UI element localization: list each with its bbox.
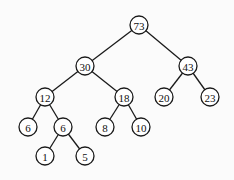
tree-svg: 733043121820236681015 <box>0 0 234 180</box>
node-label: 73 <box>134 20 146 32</box>
tree-node-18: 18 <box>115 88 133 106</box>
node-label: 18 <box>119 92 131 104</box>
tree-node-8: 8 <box>96 118 114 136</box>
node-label: 23 <box>205 92 217 104</box>
node-label: 10 <box>136 122 148 134</box>
tree-node-5: 5 <box>76 147 94 165</box>
node-label: 8 <box>102 122 108 134</box>
tree-node-10: 10 <box>132 118 150 136</box>
node-label: 6 <box>25 122 31 134</box>
node-label: 12 <box>40 92 51 104</box>
tree-node-20: 20 <box>155 88 173 106</box>
tree-diagram: 733043121820236681015 <box>0 0 234 180</box>
tree-node-12: 12 <box>36 88 54 106</box>
node-label: 30 <box>80 61 92 73</box>
node-label: 6 <box>60 122 66 134</box>
tree-node-6: 6 <box>54 118 72 136</box>
tree-node-30: 30 <box>76 57 94 75</box>
tree-node-43: 43 <box>179 57 197 75</box>
node-label: 43 <box>183 61 195 73</box>
tree-node-1: 1 <box>36 147 54 165</box>
node-label: 20 <box>159 92 171 104</box>
nodes: 733043121820236681015 <box>19 16 219 165</box>
tree-node-23: 23 <box>201 88 219 106</box>
edge-73-30 <box>85 25 139 66</box>
node-label: 1 <box>42 151 48 163</box>
tree-node-73: 73 <box>130 16 148 34</box>
tree-node-6: 6 <box>19 118 37 136</box>
node-label: 5 <box>82 151 88 163</box>
